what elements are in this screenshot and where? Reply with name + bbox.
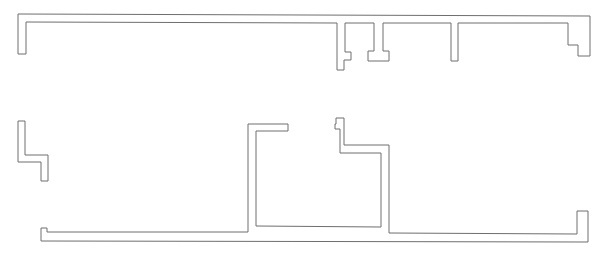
- left-stepped-wall: [18, 121, 48, 181]
- lower-wall-run: [41, 118, 588, 242]
- upper-wall-run: [18, 14, 590, 70]
- floor-plan-drawing: [0, 0, 605, 258]
